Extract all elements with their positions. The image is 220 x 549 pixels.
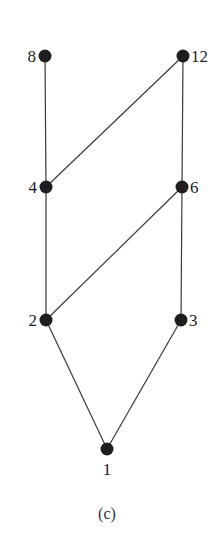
node-2	[40, 314, 53, 327]
node-group	[39, 50, 190, 456]
node-4	[40, 181, 53, 194]
node-12	[177, 50, 190, 63]
edge-8-4	[45, 56, 46, 187]
node-label-2: 2	[29, 311, 38, 330]
edge-2-1	[46, 320, 107, 449]
node-label-4: 4	[29, 178, 38, 197]
edge-12-4	[46, 56, 183, 187]
node-label-12: 12	[191, 47, 208, 66]
edge-6-3	[181, 187, 182, 320]
edge-6-2	[46, 187, 182, 320]
node-1	[101, 443, 114, 456]
node-8	[39, 50, 52, 63]
node-3	[175, 314, 188, 327]
node-6	[176, 181, 189, 194]
figure-caption: (c)	[98, 505, 116, 523]
hasse-diagram: 81246231 (c)	[0, 0, 220, 549]
node-label-1: 1	[103, 460, 112, 479]
edge-group	[45, 56, 183, 449]
edge-12-6	[182, 56, 183, 187]
node-label-6: 6	[190, 178, 199, 197]
node-label-8: 8	[28, 47, 37, 66]
node-label-3: 3	[189, 311, 198, 330]
edge-3-1	[107, 320, 181, 449]
